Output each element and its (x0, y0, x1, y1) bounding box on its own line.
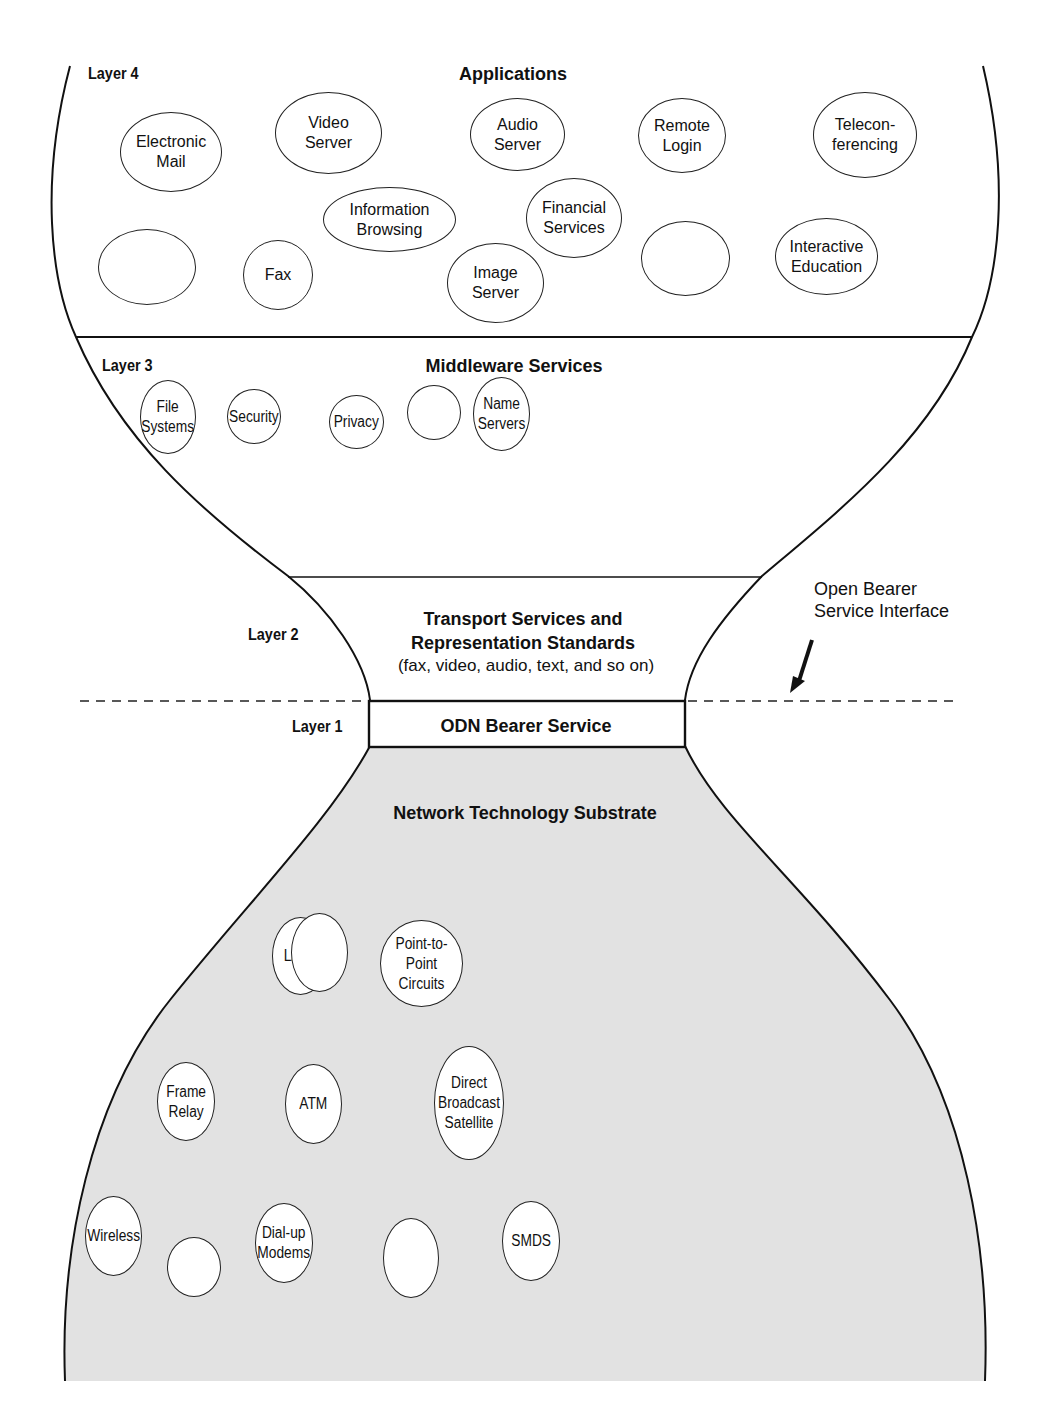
app-node-empty-1 (98, 229, 196, 305)
app-node-empty-2 (641, 221, 730, 296)
mw-node-file-systems: File Systems (140, 380, 196, 454)
net-node-atm: ATM (285, 1064, 342, 1144)
interface-annotation-line2: Service Interface (814, 600, 949, 622)
net-node-direct-broadcast-satellite: Direct Broadcast Satellite (434, 1046, 504, 1160)
interface-annotation-line1: Open Bearer (814, 578, 917, 600)
net-node-wireless: Wireless (85, 1196, 142, 1276)
layer2-label: Layer 2 (248, 625, 299, 645)
app-node-audio-server: Audio Server (470, 98, 565, 171)
net-node-frame-relay: Frame Relay (157, 1062, 215, 1141)
layer3-label: Layer 3 (102, 356, 153, 376)
net-node-smds: SMDS (502, 1201, 560, 1281)
substrate-title: Network Technology Substrate (393, 803, 657, 824)
mw-node-name-servers: Name Servers (473, 377, 530, 451)
app-node-financial-services: Financial Services (526, 178, 622, 258)
app-node-fax: Fax (243, 240, 313, 310)
layer4-label: Layer 4 (88, 64, 139, 84)
layer3-title: Middleware Services (425, 356, 602, 377)
mw-node-empty-1 (407, 385, 461, 440)
net-node-dial-up-modems: Dial-up Modems (255, 1203, 313, 1283)
layer2-subtitle: (fax, video, audio, text, and so on) (398, 656, 654, 676)
mw-node-security: Security (227, 389, 281, 444)
arrowhead-icon (790, 676, 805, 693)
app-node-information-browsing: Information Browsing (323, 187, 456, 252)
layer2-title-line1: Transport Services and (423, 609, 622, 630)
app-node-image-server: Image Server (447, 243, 544, 323)
layer4-title: Applications (459, 64, 567, 85)
net-node-empty-3 (383, 1218, 439, 1298)
app-node-teleconferencing: Telecon- ferencing (813, 92, 917, 178)
mw-node-privacy: Privacy (329, 395, 384, 449)
layer1-label: Layer 1 (292, 717, 343, 737)
app-node-interactive-education: Interactive Education (775, 218, 878, 295)
app-node-remote-login: Remote Login (638, 98, 726, 173)
app-node-video-server: Video Server (275, 92, 382, 174)
net-node-point-to-point-circuits: Point-to-Point Circuits (380, 920, 463, 1007)
layer1-title: ODN Bearer Service (440, 716, 611, 737)
net-node-empty-2 (167, 1237, 221, 1297)
app-node-electronic-mail: Electronic Mail (120, 112, 222, 192)
net-node-empty-1 (291, 913, 348, 992)
arrow-icon (798, 640, 812, 684)
layer2-title-line2: Representation Standards (411, 633, 635, 654)
